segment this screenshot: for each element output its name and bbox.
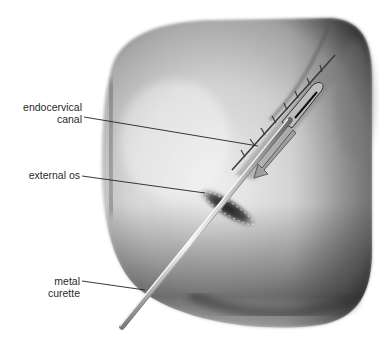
label-endocervical-canal: endocervical canal (14, 101, 82, 125)
label-line: curette (20, 287, 80, 299)
cervix-illustration: endocervical canal external os metal cur… (0, 0, 391, 351)
label-metal-curette: metal curette (20, 275, 80, 299)
label-line: metal (20, 275, 80, 287)
label-line: external os (10, 169, 80, 181)
label-external-os: external os (10, 169, 80, 181)
label-line: canal (14, 113, 82, 125)
label-line: endocervical (14, 101, 82, 113)
